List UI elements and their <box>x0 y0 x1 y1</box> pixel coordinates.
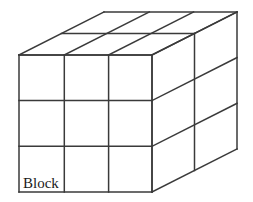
front-face-fill <box>19 55 152 192</box>
block-label: Block <box>23 175 59 191</box>
block-diagram-svg: Block <box>0 0 253 202</box>
block-figure: Block <box>0 0 253 202</box>
